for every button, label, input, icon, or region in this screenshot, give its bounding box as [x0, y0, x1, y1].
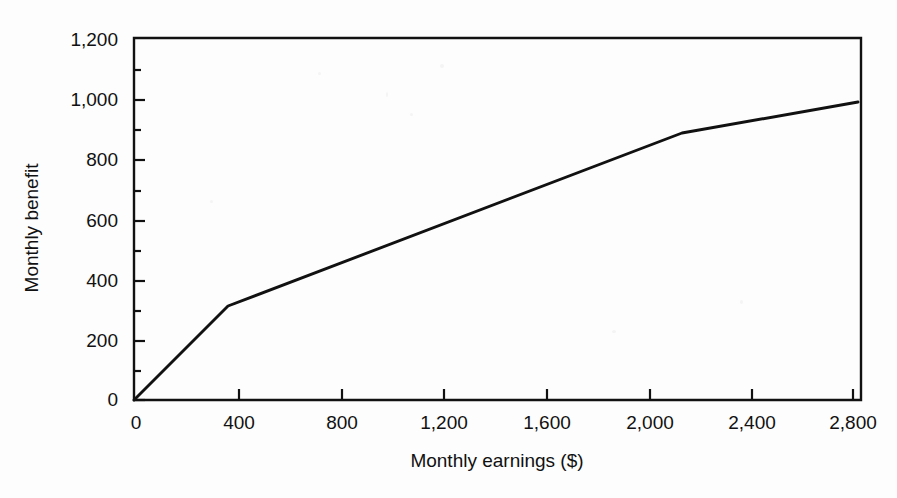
x-major-ticks [239, 389, 853, 400]
data-series-monthly-benefit [134, 102, 858, 400]
plot-area [0, 0, 897, 498]
chart-figure: 1,200 1,000 800 600 400 200 0 0 400 800 … [0, 0, 897, 498]
axis-frame [134, 38, 861, 400]
